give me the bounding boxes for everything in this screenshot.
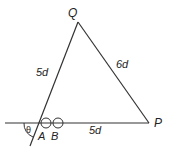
label-p: P <box>154 116 162 130</box>
side-qp <box>78 22 149 123</box>
label-q: Q <box>68 6 77 20</box>
side-qa-extended <box>30 22 78 146</box>
label-side-qa: 5d <box>36 66 49 78</box>
label-side-bp: 5d <box>89 124 102 136</box>
triangle-diagram: Q P A B 5d 6d 5d θ <box>0 0 175 152</box>
label-b: B <box>51 130 58 142</box>
label-a: A <box>37 130 45 142</box>
label-side-qp: 6d <box>116 58 129 70</box>
label-angle: θ <box>26 125 31 135</box>
